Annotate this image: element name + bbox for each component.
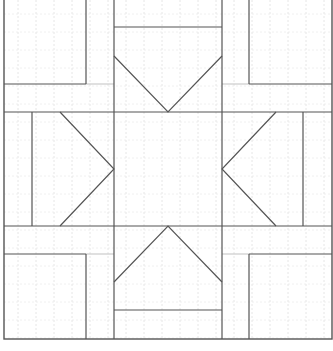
triangle-right — [222, 112, 276, 226]
quilt-block-diagram — [0, 0, 333, 351]
light-seam-lines — [86, 84, 249, 254]
triangle-bottom — [114, 226, 222, 282]
triangle-left — [60, 112, 114, 226]
seam-lines — [4, 0, 332, 339]
background-grid — [4, 0, 332, 339]
diagram-canvas — [0, 0, 333, 351]
block-border — [4, 0, 332, 339]
